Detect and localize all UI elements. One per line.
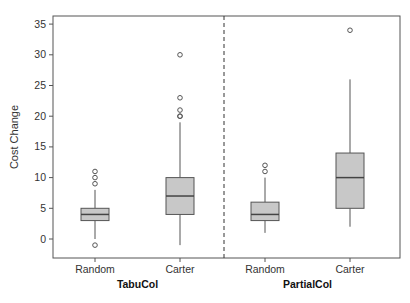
outlier-point (178, 53, 183, 58)
outlier-point (93, 169, 98, 174)
y-tick-label: 35 (34, 18, 46, 30)
outlier-point (93, 181, 98, 186)
group-label-tabucol: TabuCol (117, 278, 158, 290)
outlier-point (178, 108, 183, 113)
plot-frame (53, 16, 400, 258)
outlier-point (178, 114, 183, 119)
y-axis-title: Cost Change (8, 105, 20, 169)
iqr-box (251, 202, 279, 220)
y-tick-label: 30 (34, 48, 46, 60)
box-partialcol-carter (336, 28, 364, 227)
boxes (81, 28, 364, 248)
y-tick-label: 0 (40, 233, 46, 245)
outlier-point (178, 95, 183, 100)
y-tick-label: 20 (34, 110, 46, 122)
x-category-label: Random (75, 263, 115, 275)
chart-svg: 05101520253035 RandomCarterTabuColRandom… (0, 0, 410, 303)
outlier-point (263, 169, 268, 174)
box-tabucol-random (81, 169, 109, 247)
outlier-point (93, 175, 98, 180)
box-tabucol-carter (166, 53, 194, 246)
y-axis: 05101520253035 (34, 18, 53, 245)
y-tick-label: 15 (34, 140, 46, 152)
box-plot-chart: 05101520253035 RandomCarterTabuColRandom… (0, 0, 410, 303)
y-tick-label: 10 (34, 171, 46, 183)
x-category-label: Carter (335, 263, 365, 275)
group-label-partialcol: PartialCol (283, 278, 332, 290)
iqr-box (336, 153, 364, 208)
outlier-point (263, 163, 268, 168)
x-category-label: Random (245, 263, 285, 275)
outlier-point (93, 243, 98, 248)
outlier-point (348, 28, 353, 33)
x-category-label: Carter (165, 263, 195, 275)
x-axis: RandomCarterTabuColRandomCarterPartialCo… (75, 258, 365, 290)
y-tick-label: 5 (40, 202, 46, 214)
box-partialcol-random (251, 163, 279, 233)
y-tick-label: 25 (34, 79, 46, 91)
